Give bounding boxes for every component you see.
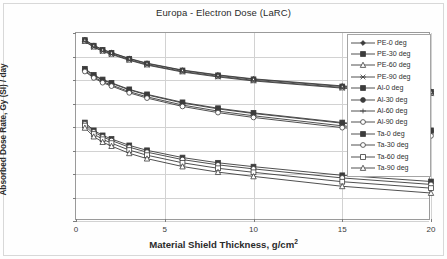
data-point-square-filled xyxy=(361,86,366,91)
data-point-cross-x xyxy=(360,74,366,79)
legend-item-ta-90-deg[interactable]: Ta-90 deg xyxy=(348,162,430,173)
x-tick-label: 15 xyxy=(338,225,347,234)
legend-marker-icon xyxy=(350,38,376,48)
x-axis-title-exponent: 2 xyxy=(294,238,298,245)
legend-item-al-30-deg[interactable]: Al-30 deg xyxy=(348,94,430,105)
data-point-circle-open xyxy=(361,120,366,125)
legend-item-pe-60-deg[interactable]: PE-60 deg xyxy=(348,60,430,71)
legend-marker-icon xyxy=(350,140,376,150)
data-point-circle-filled xyxy=(361,97,366,102)
legend-label: PE-30 deg xyxy=(377,50,411,58)
chart-figure: Europa - Electron Dose (LaRC) Absorbed D… xyxy=(0,0,447,259)
gridline-horizontal xyxy=(76,221,429,222)
data-point-square-filled xyxy=(361,52,366,57)
legend-item-ta-60-deg[interactable]: Ta-60 deg xyxy=(348,151,430,162)
legend-label: PE-60 deg xyxy=(377,61,411,69)
legend-label: PE-90 deg xyxy=(377,73,411,81)
data-point-circle-open xyxy=(127,90,132,95)
legend-label: PE-0 deg xyxy=(377,39,407,47)
legend-marker-icon xyxy=(350,83,376,93)
legend-item-ta-30-deg[interactable]: Ta-30 deg xyxy=(348,140,430,151)
x-axis-title-text: Material Shield Thickness, g/cm xyxy=(149,239,294,250)
legend-label: Ta-0 deg xyxy=(377,130,405,138)
legend-marker-icon xyxy=(350,49,376,59)
legend-item-al-0-deg[interactable]: Al-0 deg xyxy=(348,83,430,94)
data-point-circle-open xyxy=(91,75,96,80)
x-tick-label: 0 xyxy=(74,225,78,234)
data-point-square-filled xyxy=(361,131,366,136)
legend-marker-icon xyxy=(350,152,376,162)
chart-legend: PE-0 degPE-30 degPE-60 degPE-90 degAl-0 … xyxy=(347,34,431,177)
x-tick-label: 5 xyxy=(163,225,167,234)
data-point-circle-open xyxy=(109,84,114,89)
data-point-circle-open xyxy=(100,80,105,85)
data-point-square-open xyxy=(361,154,366,159)
legend-item-pe-0-deg[interactable]: PE-0 deg xyxy=(348,37,430,48)
legend-label: Ta-60 deg xyxy=(377,153,409,161)
legend-marker-icon xyxy=(350,95,376,105)
legend-item-pe-30-deg[interactable]: PE-30 deg xyxy=(348,48,430,59)
data-point-circle-open xyxy=(216,110,221,115)
x-tick-label: 10 xyxy=(249,225,258,234)
legend-marker-icon xyxy=(350,117,376,127)
data-point-circle-open xyxy=(180,104,185,109)
y-axis-title: Absorbed Dose Rate, Gy (SI) / day xyxy=(0,0,14,259)
legend-label: Al-0 deg xyxy=(377,84,403,92)
data-point-circle-open xyxy=(82,69,87,74)
legend-item-al-90-deg[interactable]: Al-90 deg xyxy=(348,117,430,128)
legend-label: Al-30 deg xyxy=(377,96,407,104)
chart-title: Europa - Electron Dose (LaRC) xyxy=(0,7,447,18)
legend-marker-icon xyxy=(350,106,376,116)
x-tick-mark xyxy=(431,219,432,222)
y-axis-title-text: Absorbed Dose Rate, Gy (SI) / day xyxy=(0,0,8,259)
legend-label: Ta-90 deg xyxy=(377,164,409,172)
legend-item-pe-90-deg[interactable]: PE-90 deg xyxy=(348,71,430,82)
legend-label: Al-60 deg xyxy=(377,107,407,115)
legend-label: Al-90 deg xyxy=(377,118,407,126)
data-point-circle-open xyxy=(361,143,366,148)
legend-marker-icon xyxy=(350,72,376,82)
x-axis-title: Material Shield Thickness, g/cm2 xyxy=(0,238,447,250)
legend-item-al-60-deg[interactable]: Al-60 deg xyxy=(348,105,430,116)
legend-item-ta-0-deg[interactable]: Ta-0 deg xyxy=(348,128,430,139)
legend-marker-icon xyxy=(350,163,376,173)
legend-label: Ta-30 deg xyxy=(377,141,409,149)
data-point-diamond-filled xyxy=(361,40,366,45)
legend-marker-icon xyxy=(350,60,376,70)
data-point-circle-open xyxy=(340,125,345,130)
data-point-circle-open xyxy=(145,96,150,101)
data-point-circle-open xyxy=(251,115,256,120)
legend-marker-icon xyxy=(350,129,376,139)
x-tick-label: 20 xyxy=(427,225,436,234)
data-point-plus xyxy=(360,109,366,114)
